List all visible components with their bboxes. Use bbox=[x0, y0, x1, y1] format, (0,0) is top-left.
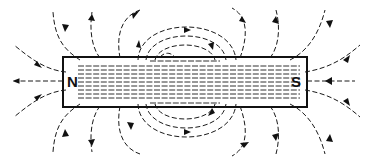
internal-field-lines bbox=[78, 61, 300, 103]
bar-magnet-field-diagram: N S bbox=[0, 0, 366, 161]
bottom-field-lines bbox=[14, 90, 360, 156]
top-field-lines bbox=[14, 8, 360, 72]
north-pole-label: N bbox=[67, 73, 78, 90]
south-pole-label: S bbox=[291, 73, 301, 90]
